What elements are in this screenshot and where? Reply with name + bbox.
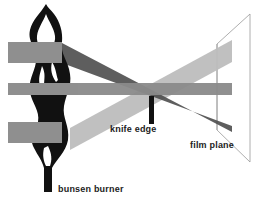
knife-edge <box>149 96 154 124</box>
knife-edge-label: knife edge <box>110 124 157 134</box>
slit-middle <box>8 83 78 95</box>
bunsen-burner-label: bunsen burner <box>58 184 124 194</box>
slit-bottom <box>8 122 62 143</box>
schlieren-diagram <box>0 0 255 197</box>
film-plane-label: film plane <box>190 140 234 150</box>
slit-top <box>8 42 62 63</box>
flame <box>29 4 70 192</box>
